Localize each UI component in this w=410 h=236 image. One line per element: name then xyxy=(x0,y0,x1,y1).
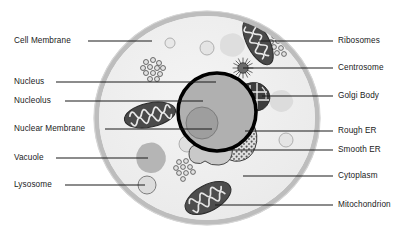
label-lysosome: Lysosome xyxy=(14,180,52,190)
label-golgi-body: Golgi Body xyxy=(338,91,379,101)
label-smooth-er: Smooth ER xyxy=(338,145,381,155)
label-cytoplasm: Cytoplasm xyxy=(338,171,378,181)
cell-diagram-page: Cell MembraneNucleusNucleolusNuclear Mem… xyxy=(0,0,410,236)
label-rough-er: Rough ER xyxy=(338,126,377,136)
label-nuclear-membrane: Nuclear Membrane xyxy=(14,124,85,134)
label-vacuole: Vacuole xyxy=(14,153,44,163)
label-mitochondrion: Mitochondrion xyxy=(338,200,391,210)
label-cell-membrane: Cell Membrane xyxy=(14,36,71,46)
label-ribosomes: Ribosomes xyxy=(338,36,380,46)
label-nucleolus: Nucleolus xyxy=(14,96,51,106)
label-centrosome: Centrosome xyxy=(338,63,384,73)
label-nucleus: Nucleus xyxy=(14,77,44,87)
